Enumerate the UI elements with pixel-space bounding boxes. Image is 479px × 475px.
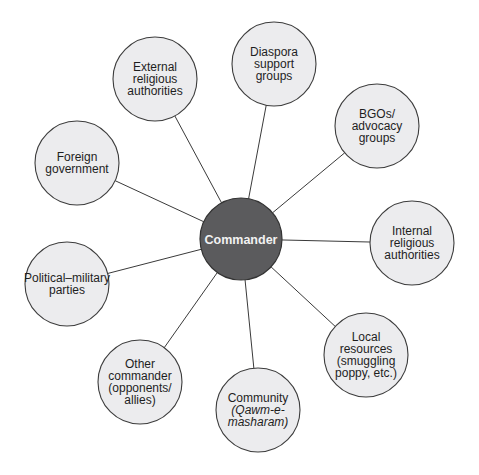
commander-network-diagram: ExternalreligiousauthoritiesDiasporasupp… [0, 0, 479, 475]
edge-foreign-government [115, 181, 204, 222]
node-label-line: government [45, 162, 109, 176]
node-label-line: masharam) [228, 415, 289, 429]
node-label-line: poppy, etc.) [335, 366, 397, 380]
node-other-commander: Othercommander(opponents/allies) [98, 340, 182, 424]
node-label-line: parties [49, 283, 85, 297]
node-diaspora-support-groups: Diasporasupportgroups [232, 22, 316, 106]
edge-internal-religious-authorities [282, 240, 370, 242]
node-label-line: authorities [127, 84, 182, 98]
node-internal-religious-authorities: Internalreligiousauthorities [370, 201, 454, 285]
edge-community [245, 280, 254, 368]
edge-external-religious-authorities [175, 116, 222, 203]
node-community: Community(Qawm-e-masharam) [216, 368, 300, 452]
node-external-religious-authorities: Externalreligiousauthorities [113, 37, 197, 121]
edge-political-military-parties [108, 249, 202, 273]
edge-local-resources [271, 267, 335, 327]
node-local-resources: Localresources(smugglingpoppy, etc.) [324, 313, 408, 397]
edge-bgos-advocacy-groups [273, 153, 345, 213]
node-label-line: groups [359, 131, 396, 145]
node-label-line: authorities [384, 248, 439, 262]
edge-diaspora-support-groups [249, 105, 267, 198]
commander-label: Commander [205, 233, 278, 247]
edge-other-commander [164, 272, 217, 347]
node-foreign-government: Foreigngovernment [35, 121, 119, 205]
node-political-military-parties: Political–militaryparties [24, 242, 110, 326]
node-bgos-advocacy-groups: BGOs/advocacygroups [335, 84, 419, 168]
node-label-line: groups [256, 69, 293, 83]
node-label-line: allies) [124, 393, 155, 407]
hub: Commander [200, 198, 282, 280]
